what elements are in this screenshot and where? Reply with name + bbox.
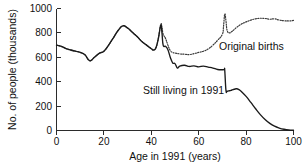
x-tick-label-80: 80 xyxy=(241,136,253,147)
annotation-still-living: Still living in 1991 xyxy=(143,84,224,96)
y-tick-label-200: 200 xyxy=(35,101,52,112)
annotation-original-births: Original births xyxy=(219,40,284,52)
x-tick-label-40: 40 xyxy=(146,136,158,147)
line-chart: 0 200 400 600 800 1000 0 20 40 60 80 100… xyxy=(0,0,308,165)
y-tick-label-800: 800 xyxy=(35,27,52,38)
y-tick-label-400: 400 xyxy=(35,76,52,87)
x-tick-label-20: 20 xyxy=(98,136,110,147)
y-tick-label-0: 0 xyxy=(46,125,52,136)
x-tick-label-60: 60 xyxy=(193,136,205,147)
y-tick-label-1000: 1000 xyxy=(30,3,53,14)
y-tick-label-600: 600 xyxy=(35,52,52,63)
x-tick-label-0: 0 xyxy=(54,136,60,147)
chart-container: 0 200 400 600 800 1000 0 20 40 60 80 100… xyxy=(0,0,308,165)
x-axis-title: Age in 1991 (years) xyxy=(129,150,221,162)
y-axis-title: No. of people (thousands) xyxy=(6,9,18,130)
x-tick-label-100: 100 xyxy=(285,136,302,147)
